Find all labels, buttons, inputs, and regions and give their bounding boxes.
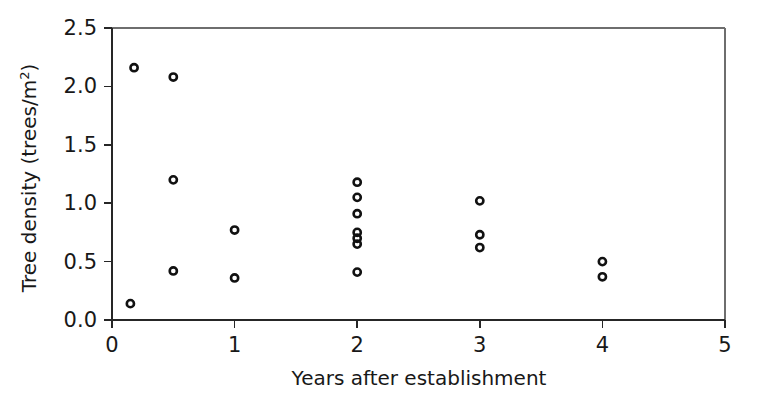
y-tick-label: 0.0 — [64, 308, 97, 332]
data-point — [354, 269, 361, 276]
y-axis-ticks: 0.00.51.01.52.02.5 — [64, 16, 112, 332]
plot-canvas: 0.00.51.01.52.02.5 012345 Years after es… — [0, 0, 776, 397]
data-point — [476, 197, 483, 204]
plot-frame — [112, 28, 725, 320]
data-point — [476, 244, 483, 251]
data-point — [354, 194, 361, 201]
y-tick-label: 2.0 — [64, 74, 97, 98]
y-tick-label: 2.5 — [64, 16, 97, 40]
data-point — [170, 73, 177, 80]
y-axis-title: Tree density (trees/m2) — [17, 64, 41, 294]
data-point — [354, 210, 361, 217]
data-point — [170, 176, 177, 183]
data-point — [231, 226, 238, 233]
x-tick-label: 3 — [473, 333, 486, 357]
data-point — [354, 179, 361, 186]
y-axis-title-superscript: 2 — [17, 72, 32, 80]
data-point — [130, 64, 137, 71]
scatter-plot-figure: 0.00.51.01.52.02.5 012345 Years after es… — [0, 0, 776, 397]
x-tick-label: 0 — [105, 333, 118, 357]
x-tick-label: 4 — [596, 333, 609, 357]
y-axis-title-base: Tree density (trees/m — [17, 80, 41, 293]
data-point — [170, 267, 177, 274]
data-point — [599, 258, 606, 265]
y-tick-label: 1.5 — [64, 133, 97, 157]
y-axis-title-tail: ) — [17, 64, 41, 72]
data-point — [476, 231, 483, 238]
x-tick-label: 2 — [351, 333, 364, 357]
data-point — [127, 300, 134, 307]
x-axis-ticks: 012345 — [105, 320, 731, 357]
data-point — [231, 274, 238, 281]
data-point-group — [127, 64, 606, 307]
x-tick-label: 1 — [228, 333, 241, 357]
data-point — [354, 240, 361, 247]
data-point — [599, 273, 606, 280]
y-tick-label: 1.0 — [64, 191, 97, 215]
x-tick-label: 5 — [718, 333, 731, 357]
x-axis-title: Years after establishment — [291, 366, 547, 390]
y-tick-label: 0.5 — [64, 250, 97, 274]
